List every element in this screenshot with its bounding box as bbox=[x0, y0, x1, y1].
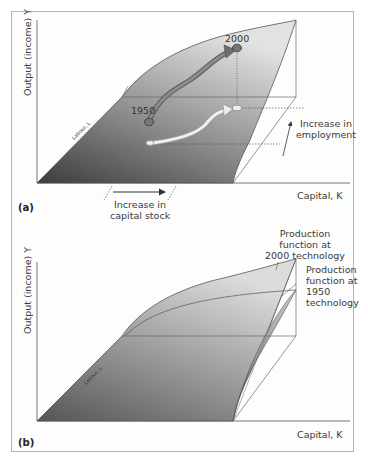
pf-1950-label: Production function at 1950 technology bbox=[306, 264, 359, 308]
point-2000 bbox=[233, 44, 242, 52]
production-surface-2000 bbox=[37, 259, 296, 421]
x-axis-label-a: Capital, K bbox=[297, 190, 343, 201]
panel-a-label: (a) bbox=[18, 202, 34, 213]
x-axis-label-b: Capital, K bbox=[297, 429, 343, 440]
y-axis-label-a: Output (income) Y bbox=[22, 9, 33, 96]
year-1950-label: 1950 bbox=[131, 105, 155, 116]
panel-b-label: (b) bbox=[18, 437, 34, 448]
point-1950 bbox=[145, 118, 154, 126]
employment-increase-arrow bbox=[283, 122, 291, 156]
year-2000-label: 2000 bbox=[225, 33, 249, 44]
panel-b: Labour, L bbox=[37, 259, 350, 421]
panel-a: Labour, L bbox=[37, 20, 350, 200]
employment-increase-label: Increase in employment bbox=[296, 118, 356, 140]
pf-2000-label: Production function at 2000 technology bbox=[260, 228, 350, 261]
y-axis-label-b: Output (income) Y bbox=[22, 247, 33, 334]
capital-increase-label: Increase in capital stock bbox=[110, 199, 170, 221]
production-surface-a bbox=[37, 20, 296, 183]
